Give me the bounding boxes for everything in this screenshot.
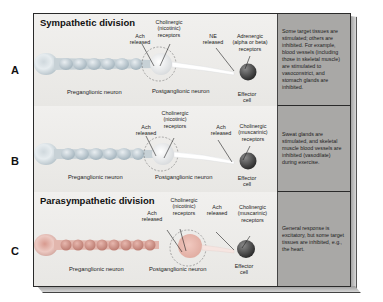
label-ach-released-pre: Achreleased bbox=[137, 210, 167, 223]
description-a: Some target tissues are stimulated; othe… bbox=[277, 14, 350, 106]
row-letter-c: C bbox=[11, 245, 19, 257]
description-c: General response is excitatory, but some… bbox=[277, 192, 350, 286]
row-sympathetic-cholinergic: Achreleased Cholinergic(nicotinic)recept… bbox=[34, 106, 277, 193]
label-ach-released-post: Achreleased bbox=[202, 204, 232, 217]
label-adrenergic-receptors: Adrenergic(alpha or beta)receptors bbox=[227, 33, 273, 52]
label-muscarinic-receptors: Cholinergic(muscarinic)receptors bbox=[231, 123, 275, 142]
label-effector-cell: Effectorcell bbox=[230, 175, 264, 188]
label-postganglionic-neuron: Postganglionic neuron bbox=[155, 174, 212, 180]
description-text-a: Some target tissues are stimulated; othe… bbox=[282, 28, 346, 92]
row-sympathetic-adrenergic: Sympathetic division bbox=[34, 14, 277, 107]
label-muscarinic-receptors: Cholinergic(muscarinic)receptors bbox=[230, 204, 275, 223]
row-letter-a: A bbox=[11, 64, 19, 76]
label-effector-cell: Effectorcell bbox=[230, 91, 264, 104]
label-nicotinic-receptors: Cholinergic(nicotinic)receptors bbox=[151, 19, 187, 38]
description-text-c: General response is excitatory, but some… bbox=[282, 225, 346, 253]
description-text-b: Sweat glands are stimulated, and skeleta… bbox=[282, 131, 346, 166]
label-preganglionic-neuron: Preganglionic neuron bbox=[67, 89, 122, 95]
label-postganglionic-neuron: Postganglionic neuron bbox=[152, 88, 209, 94]
row-parasympathetic: Parasympathetic division Achreleased Cho… bbox=[34, 192, 277, 286]
label-ne-released: NEreleased bbox=[197, 33, 229, 46]
label-preganglionic-neuron: Preganglionic neuron bbox=[68, 174, 123, 180]
frame-shadow-right bbox=[350, 16, 357, 293]
frame-shadow-bottom bbox=[37, 286, 361, 293]
label-nicotinic-receptors: Cholinergic(nicotinic)receptors bbox=[166, 197, 202, 216]
label-postganglionic-neuron: Postganglionic neuron bbox=[149, 266, 206, 272]
figure-panel: Sympathetic division bbox=[33, 13, 351, 287]
label-preganglionic-neuron: Preganglionic neuron bbox=[69, 266, 124, 272]
label-nicotinic-receptors: Cholinergic(nicotinic)receptors bbox=[157, 110, 193, 129]
row-letter-b: B bbox=[11, 155, 19, 167]
description-b: Sweat glands are stimulated, and skeleta… bbox=[277, 106, 350, 192]
label-effector-cell: Effectorcell bbox=[227, 263, 261, 276]
